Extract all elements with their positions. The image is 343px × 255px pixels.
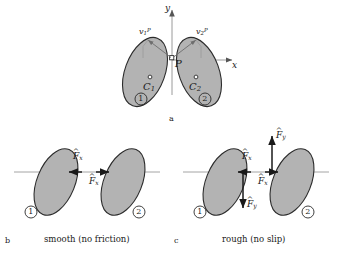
panel-b-caption: smooth (no friction) <box>44 234 130 244</box>
hat-accent-icon: ^ <box>242 148 248 156</box>
panel-c-letter: c <box>174 236 178 245</box>
contact-point-label: P <box>175 59 182 69</box>
panel-c-force-y-up-label: ^Fy <box>276 131 286 140</box>
center-2-sub: 2 <box>197 85 201 93</box>
body-2-number: 2 <box>202 95 207 103</box>
hat-accent-icon: ^ <box>73 148 79 156</box>
panel-c-fx-right-sub: x <box>264 179 267 186</box>
velocity-2-label: v2P <box>196 28 208 37</box>
panel-c-fy-down-sub: y <box>253 202 256 209</box>
center-1-symbol: C <box>143 81 151 92</box>
panel-b-fx-right-sub: x <box>95 179 98 186</box>
center-1-label: C1 <box>143 82 155 93</box>
hat-accent-icon: ^ <box>247 196 253 204</box>
panel-b-body-1-number: 1 <box>28 208 33 216</box>
figure-canvas <box>0 0 343 255</box>
panel-b-letter: b <box>5 236 10 245</box>
hat-accent-icon: ^ <box>89 173 95 181</box>
panel-a-graphic <box>114 10 232 113</box>
figure-root: y x P v1P v2P C1 C2 1 2 a ^Fx ^Fx 1 2 b … <box>0 0 343 255</box>
center-1-sub: 1 <box>151 85 155 93</box>
panel-c-force-x-right-label: ^Fx <box>258 177 268 186</box>
panel-b-body-2-number: 2 <box>136 208 141 216</box>
body-1-number: 1 <box>138 95 143 103</box>
velocity-2-sup: P <box>204 27 208 33</box>
center-1-marker <box>148 75 152 79</box>
center-2-marker <box>194 75 198 79</box>
panel-c-caption: rough (no slip) <box>222 234 285 244</box>
panel-c-fy-up-sub: y <box>282 133 285 140</box>
panel-b-force-x-left-label: ^Fx <box>73 152 83 161</box>
velocity-1-label: v1P <box>139 28 151 37</box>
hat-accent-icon: ^ <box>258 173 264 181</box>
x-axis-label: x <box>232 61 237 70</box>
panel-b-fx-left-sub: x <box>79 154 82 161</box>
y-axis-label: y <box>165 4 170 13</box>
panel-c-body-1-number: 1 <box>197 208 202 216</box>
panel-c-fx-left-sub: x <box>248 154 251 161</box>
velocity-1-sup: P <box>147 27 151 33</box>
panel-b-force-x-right-label: ^Fx <box>89 177 99 186</box>
center-2-label: C2 <box>189 82 201 93</box>
panel-c-body-2-number: 2 <box>305 208 310 216</box>
panel-c-force-x-left-label: ^Fx <box>242 152 252 161</box>
panel-c-force-y-down-label: ^Fy <box>247 200 257 209</box>
hat-accent-icon: ^ <box>276 127 282 135</box>
center-2-symbol: C <box>189 81 197 92</box>
panel-a-letter: a <box>169 114 174 123</box>
